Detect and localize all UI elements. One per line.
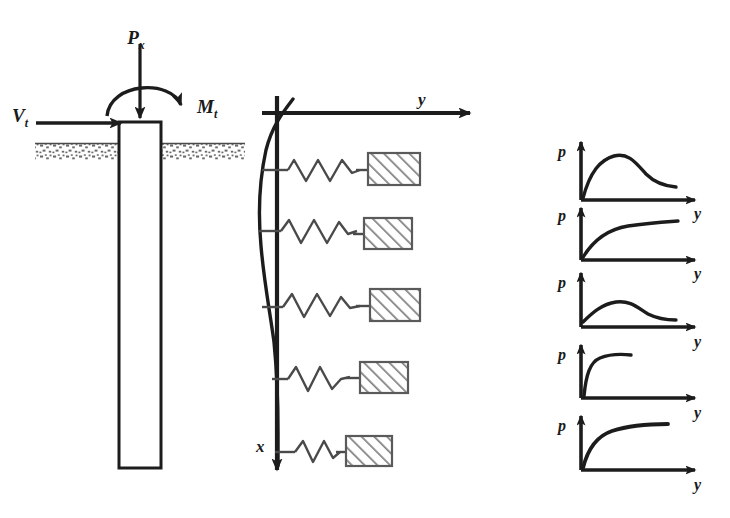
pile-soil-model-figure: Px Mt Vt y x (0, 0, 730, 518)
soil-spring-2 (259, 218, 412, 249)
py-curve-1: p y (556, 142, 702, 223)
py-curve-4-xlabel: y (692, 404, 702, 422)
x-axis-label: x (255, 437, 265, 456)
y-axis-label: y (416, 90, 426, 109)
ground-surface-right (161, 143, 245, 160)
soil-block-2 (364, 218, 412, 249)
py-curve-2: p y (556, 207, 702, 283)
py-curve-1-ylabel: p (556, 143, 566, 161)
py-curve-4-ylabel: p (556, 346, 566, 364)
py-curve-2-ylabel: p (556, 207, 566, 225)
shear-load-label: Vt (12, 105, 29, 130)
py-curve-5: p y (556, 416, 702, 494)
moment-load-label: Mt (196, 96, 218, 121)
py-curve-5-ylabel: p (556, 417, 566, 435)
py-curve-3: p y (556, 273, 702, 351)
spring-model-diagram: y x (255, 90, 470, 470)
soil-block-5 (346, 436, 392, 466)
py-curve-1-xlabel: y (692, 205, 702, 223)
soil-spring-3 (262, 289, 420, 321)
py-curve-2-xlabel: y (692, 265, 702, 283)
pile-loading-diagram: Px Mt Vt (12, 27, 245, 468)
moment-load-arrow (107, 88, 181, 116)
soil-spring-4 (272, 362, 408, 393)
soil-spring-5 (275, 436, 392, 466)
py-curve-3-ylabel: p (556, 274, 566, 292)
figure-canvas: Px Mt Vt y x (0, 0, 730, 518)
axial-load-label: Px (126, 27, 145, 52)
pile-body (119, 122, 161, 468)
ground-surface-left (35, 143, 119, 160)
py-curve-3-xlabel: y (692, 333, 702, 351)
py-curve-4: p y (556, 345, 702, 422)
soil-block-3 (370, 289, 420, 321)
soil-spring-1 (262, 153, 420, 185)
soil-block-1 (368, 153, 420, 185)
soil-block-4 (360, 362, 408, 393)
py-curve-5-xlabel: y (692, 476, 702, 494)
